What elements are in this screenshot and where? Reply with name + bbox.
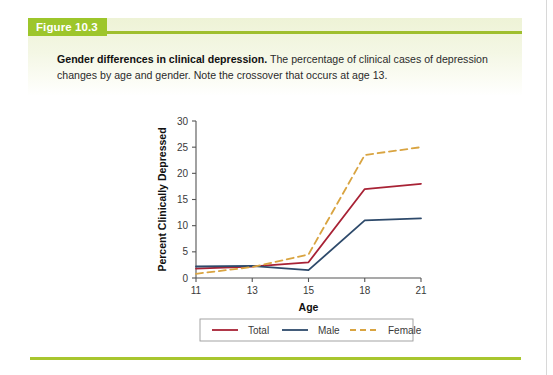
- y-axis-tick-label: 15: [177, 194, 189, 205]
- y-axis-title: Percent Clinically Depressed: [156, 127, 168, 271]
- series-line-total: [196, 184, 421, 269]
- series-line-female: [196, 147, 421, 274]
- x-axis-tick-label: 15: [303, 285, 315, 296]
- x-axis-tick-label: 21: [415, 285, 427, 296]
- figure-caption: Gender differences in clinical depressio…: [57, 52, 497, 83]
- figure-number-tab: Figure 10.3: [28, 18, 107, 36]
- legend-label-total: Total: [248, 325, 269, 336]
- y-axis-tick-label: 0: [182, 273, 188, 284]
- legend-label-male: Male: [318, 325, 340, 336]
- y-axis-tick-label: 20: [177, 168, 189, 179]
- y-axis-tick-label: 30: [177, 116, 189, 127]
- y-axis-tick-label: 25: [177, 142, 189, 153]
- chart-area: 0510152025301113151821AgePercent Clinica…: [0, 100, 553, 345]
- legend-label-female: Female: [388, 325, 422, 336]
- y-axis-tick-label: 10: [177, 220, 189, 231]
- y-axis-tick-label: 5: [182, 246, 188, 257]
- x-axis-tick-label: 18: [359, 285, 371, 296]
- footer-green-rule: [30, 357, 521, 360]
- x-axis-tick-label: 13: [247, 285, 259, 296]
- x-axis-title: Age: [299, 301, 319, 313]
- x-axis-tick-label: 11: [191, 285, 202, 296]
- depression-line-chart: 0510152025301113151821AgePercent Clinica…: [0, 100, 553, 345]
- caption-lead-text: Gender differences in clinical depressio…: [57, 53, 267, 65]
- figure-container: Figure 10.3 Gender differences in clinic…: [0, 0, 553, 375]
